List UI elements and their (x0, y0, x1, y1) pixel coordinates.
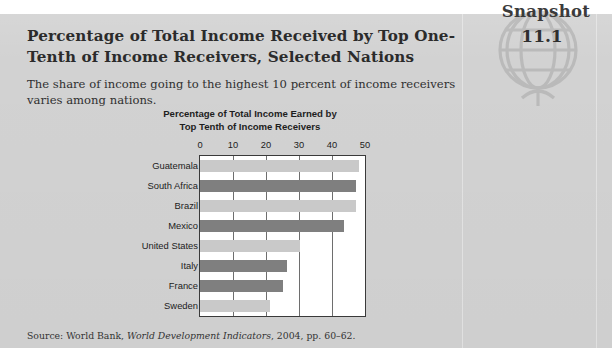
chart-title-line2: Top Tenth of Income Receivers (115, 121, 385, 134)
bar (200, 300, 270, 312)
source-prefix: Source: World Bank, (27, 330, 127, 341)
category-label: South Africa (78, 180, 198, 191)
category-label: Italy (78, 260, 198, 271)
x-tick-label: 50 (360, 140, 370, 150)
bar-chart: Percentage of Total Income Earned by Top… (120, 108, 380, 320)
category-label: Guatemala (78, 160, 198, 171)
plot-area (199, 155, 366, 317)
globe-icon (486, 6, 590, 110)
bar (200, 180, 356, 192)
snapshot-figure: Snapshot 11.1 Percentage of Total Income… (0, 0, 612, 362)
bar (200, 220, 344, 232)
category-label: Mexico (78, 220, 198, 231)
category-label: France (78, 280, 198, 291)
chart-title-line1: Percentage of Total Income Earned by (115, 108, 385, 121)
x-tick-label: 40 (327, 140, 337, 150)
x-tick-label: 20 (261, 140, 271, 150)
figure-subtitle: The share of income going to the highest… (27, 77, 482, 108)
bar (200, 200, 356, 212)
category-label: United States (78, 240, 198, 251)
bar (200, 280, 283, 292)
x-tick-label: 10 (228, 140, 238, 150)
x-tick-label: 0 (197, 140, 202, 150)
source-title: World Development Indicators (127, 330, 271, 341)
snapshot-badge: Snapshot 11.1 (480, 0, 612, 112)
source-suffix: , 2004, pp. 60–62. (271, 330, 356, 341)
bar (200, 160, 359, 172)
snapshot-label: Snapshot (480, 2, 612, 21)
figure-title: Percentage of Total Income Received by T… (27, 26, 487, 68)
bar (200, 240, 300, 252)
x-tick-label: 30 (294, 140, 304, 150)
category-label: Brazil (78, 200, 198, 211)
category-label: Sweden (78, 300, 198, 311)
chart-title: Percentage of Total Income Earned by Top… (115, 108, 385, 133)
bar (200, 260, 287, 272)
source-note: Source: World Bank, World Development In… (27, 330, 355, 341)
snapshot-number: 11.1 (480, 26, 604, 46)
